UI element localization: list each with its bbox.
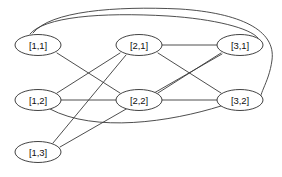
graph-node[interactable]: [3,1]: [217, 35, 263, 56]
graph-node[interactable]: [2,1]: [116, 35, 162, 56]
edge-layer: [30, 8, 272, 147]
graph-node[interactable]: [1,1]: [15, 35, 61, 56]
graph-node-label: [1,1]: [29, 40, 47, 51]
graph-diagram: [1,1][2,1][3,1][1,2][2,2][3,2][1,3]: [0, 0, 282, 177]
graph-node[interactable]: [1,3]: [15, 142, 61, 163]
graph-canvas-svg: [1,1][2,1][3,1][1,2][2,2][3,2][1,3]: [0, 0, 282, 177]
node-layer: [1,1][2,1][3,1][1,2][2,2][3,2][1,3]: [15, 35, 263, 163]
graph-node-label: [3,2]: [231, 95, 249, 106]
graph-node[interactable]: [3,2]: [217, 90, 263, 111]
graph-node[interactable]: [2,2]: [116, 90, 162, 111]
graph-node-label: [1,3]: [29, 147, 47, 158]
graph-node-label: [2,1]: [130, 40, 148, 51]
graph-node-label: [1,2]: [29, 95, 47, 106]
graph-node-label: [2,2]: [130, 95, 148, 106]
graph-node-label: [3,1]: [231, 40, 249, 51]
graph-node[interactable]: [1,2]: [15, 90, 61, 111]
